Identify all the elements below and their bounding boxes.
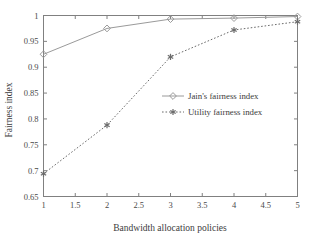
y-tick-label: 0.8 bbox=[28, 114, 39, 124]
y-tick-label: 0.65 bbox=[24, 192, 39, 202]
y-tick-label: 0.95 bbox=[24, 36, 39, 46]
x-tick-label: 4.5 bbox=[260, 200, 271, 210]
y-tick-label: 1 bbox=[34, 11, 38, 21]
legend-label-0: Jain's fairness index bbox=[188, 91, 259, 101]
fairness-index-chart: 11.522.533.544.55 0.650.70.750.80.850.90… bbox=[0, 0, 314, 238]
x-tick-label: 1.5 bbox=[70, 200, 81, 210]
x-tick-label: 5 bbox=[295, 200, 299, 210]
y-tick-label: 0.75 bbox=[24, 140, 39, 150]
chart-canvas: 11.522.533.544.55 0.650.70.750.80.850.90… bbox=[0, 0, 314, 238]
y-tick-label: 0.9 bbox=[28, 62, 39, 72]
x-tick-label: 2 bbox=[105, 200, 109, 210]
x-axis-title: Bandwidth allocation policies bbox=[113, 223, 227, 233]
x-axis-tick-labels: 11.522.533.544.55 bbox=[41, 200, 299, 210]
y-tick-label: 0.85 bbox=[24, 88, 39, 98]
legend-label-1: Utility fairness index bbox=[188, 107, 263, 117]
x-tick-label: 3 bbox=[168, 200, 172, 210]
x-tick-label: 1 bbox=[41, 200, 45, 210]
x-tick-label: 2.5 bbox=[133, 200, 144, 210]
x-tick-label: 3.5 bbox=[197, 200, 208, 210]
y-tick-label: 0.7 bbox=[28, 166, 39, 176]
y-axis-title: Fairness index bbox=[4, 82, 14, 137]
